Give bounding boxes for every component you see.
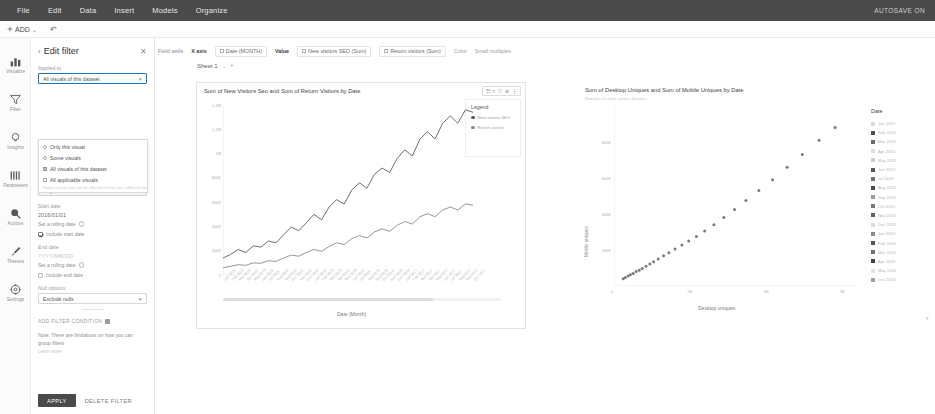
applied-to-dropdown[interactable]: Only this visual Some visuals All visual… bbox=[38, 139, 148, 193]
sliders-icon bbox=[9, 169, 22, 182]
apply-button[interactable]: APPLY bbox=[38, 394, 76, 407]
legend-item-2[interactable]: Return visitors bbox=[471, 125, 516, 130]
dropdown-option-only-this-visual[interactable]: Only this visual bbox=[39, 141, 147, 152]
legend-item-1[interactable]: New visitors SEO bbox=[471, 115, 516, 120]
undo-icon[interactable]: ↶ bbox=[50, 25, 57, 34]
x-axis-field-pill[interactable]: Date (MONTH) bbox=[215, 46, 267, 57]
rail-item-parameters[interactable]: Parameters bbox=[0, 160, 31, 198]
value-field-pill-1[interactable]: New visitors SEO (Sum) bbox=[297, 46, 371, 57]
back-chevron-icon[interactable]: ‹ bbox=[38, 47, 41, 56]
cursor-click-icon bbox=[9, 207, 22, 220]
visual-1-toolbar[interactable]: ☷ ↕ ▽ ⊘ ⋮ bbox=[482, 86, 522, 96]
sheet-tab[interactable]: Sheet 1 bbox=[197, 63, 218, 69]
menu-item-data[interactable]: Data bbox=[71, 0, 106, 21]
clock-icon[interactable] bbox=[79, 221, 85, 227]
date-legend-swatch bbox=[871, 168, 875, 172]
date-legend-item[interactable]: Nov 2015 bbox=[869, 211, 931, 220]
visual-1-legend: Legend New visitors SEO Return visitors bbox=[465, 99, 521, 157]
rail-item-settings[interactable]: Settings bbox=[0, 274, 31, 312]
start-rolling-row[interactable]: Set a rolling date bbox=[38, 221, 147, 227]
dropdown-option-some-visuals[interactable]: Some visuals bbox=[39, 152, 147, 163]
include-end-checkbox[interactable] bbox=[38, 273, 43, 278]
visual-line-chart[interactable]: Sum of New Visitors Seo and Sum of Retur… bbox=[196, 82, 526, 329]
date-legend-swatch bbox=[871, 140, 875, 144]
rail-item-insights[interactable]: Insights bbox=[0, 122, 31, 160]
date-legend-item[interactable]: Dec 2015 bbox=[869, 220, 931, 229]
null-options-select[interactable]: Exclude nulls ▾ bbox=[38, 293, 147, 304]
date-legend-item[interactable]: Jun 2015 bbox=[869, 165, 931, 174]
date-legend-swatch bbox=[871, 195, 875, 199]
y-tick-label: 600K bbox=[199, 200, 221, 205]
add-sheet-button[interactable]: + bbox=[230, 62, 234, 69]
date-legend-item[interactable]: Jun 2016 bbox=[869, 275, 931, 284]
filter-apply-icon[interactable]: ☷ bbox=[486, 86, 490, 96]
date-legend-item[interactable]: Feb 2016 bbox=[869, 238, 931, 247]
rail-label-visualize: Visualize bbox=[6, 69, 25, 75]
small-multiples-well-label[interactable]: Small multiples bbox=[475, 48, 511, 54]
date-legend-item[interactable]: May 2016 bbox=[869, 266, 931, 275]
divider bbox=[82, 309, 104, 310]
include-end-row[interactable]: Include end date bbox=[38, 272, 147, 278]
y-tick-label: 600K bbox=[590, 176, 611, 181]
date-legend-swatch bbox=[871, 213, 875, 217]
end-date-value[interactable]: YYYY/MM/DD bbox=[38, 253, 147, 259]
date-legend-swatch bbox=[871, 223, 875, 227]
include-end-label: Include end date bbox=[46, 272, 83, 278]
date-legend-label: Apr 2015 bbox=[878, 149, 895, 154]
date-legend-item[interactable]: May 2015 bbox=[869, 156, 931, 165]
menu-item-edit[interactable]: Edit bbox=[39, 0, 71, 21]
date-legend-item[interactable]: Mar 2015 bbox=[869, 137, 931, 146]
menu-item-models[interactable]: Models bbox=[143, 0, 186, 21]
color-well-label[interactable]: Color bbox=[454, 48, 467, 54]
applied-to-select[interactable]: All visuals of this dataset ▾ bbox=[38, 73, 147, 84]
dropdown-option-all-visuals-dataset[interactable]: All visuals of this dataset bbox=[39, 163, 147, 174]
visual-1-scrollbar-track[interactable] bbox=[223, 298, 501, 301]
chevron-down-icon: ▾ bbox=[139, 76, 142, 82]
date-legend-swatch bbox=[871, 278, 875, 282]
date-legend-item[interactable]: Apr 2015 bbox=[869, 147, 931, 156]
visual-1-scrollbar-thumb[interactable] bbox=[223, 298, 433, 301]
rail-item-filter[interactable]: Filter bbox=[0, 84, 31, 122]
dropdown-option-all-applicable-visuals[interactable]: All applicable visuals bbox=[39, 174, 147, 185]
start-date-value[interactable]: 2016/01/01 bbox=[38, 212, 147, 218]
rail-item-themes[interactable]: Themes bbox=[0, 236, 31, 274]
measure-icon bbox=[302, 49, 306, 53]
rail-item-visualize[interactable]: Visualize bbox=[0, 46, 31, 84]
date-legend-item[interactable]: Feb 2015 bbox=[869, 128, 931, 137]
delete-filter-button[interactable]: DELETE FILTER bbox=[85, 398, 132, 404]
y-tick-label: 200K bbox=[590, 248, 611, 253]
x-tick-label: 1M bbox=[687, 290, 692, 294]
y-tick-label: 1.2M bbox=[199, 127, 221, 132]
learn-more-link[interactable]: Learn more bbox=[38, 349, 147, 354]
menu-item-insert[interactable]: Insert bbox=[105, 0, 143, 21]
sort-icon[interactable]: ↕ bbox=[493, 86, 496, 96]
menu-item-organize[interactable]: Organize bbox=[187, 0, 237, 21]
rail-item-actions[interactable]: Actions bbox=[0, 198, 31, 236]
expand-icon[interactable]: ▾ bbox=[926, 315, 929, 321]
add-button[interactable]: ADD ⌄ bbox=[7, 26, 37, 33]
date-legend-item[interactable]: Jul 2015 bbox=[869, 174, 931, 183]
date-legend-item[interactable]: Sep 2015 bbox=[869, 193, 931, 202]
visual-scatter-chart[interactable]: Sum of Desktop Uniques and Sum of Mobile… bbox=[578, 82, 935, 329]
include-start-checkbox[interactable] bbox=[38, 232, 43, 237]
value-field-pill-2[interactable]: Return visitors (Sum) bbox=[379, 46, 446, 57]
date-legend-item[interactable]: Apr 2016 bbox=[869, 257, 931, 266]
close-icon[interactable]: ✕ bbox=[140, 47, 147, 56]
date-legend-item[interactable]: Oct 2015 bbox=[869, 202, 931, 211]
visual-1-plot-area bbox=[223, 105, 473, 275]
date-legend-item[interactable]: Aug 2015 bbox=[869, 183, 931, 192]
visual-canvas: Sum of New Visitors Seo and Sum of Retur… bbox=[158, 72, 935, 414]
null-options-label: Null options bbox=[38, 285, 147, 291]
menu-dots-icon[interactable]: ⋮ bbox=[512, 86, 517, 96]
add-filter-condition-button[interactable]: ADD FILTER CONDITION bbox=[38, 318, 147, 324]
menu-item-file[interactable]: File bbox=[8, 0, 39, 21]
date-legend-item[interactable]: Jan 2015 bbox=[869, 119, 931, 128]
date-legend-item[interactable]: Mar 2016 bbox=[869, 248, 931, 257]
clock-icon[interactable] bbox=[79, 262, 85, 268]
chevron-down-icon[interactable]: ⌄ bbox=[222, 63, 226, 69]
date-legend-item[interactable]: Jan 2016 bbox=[869, 229, 931, 238]
include-start-row[interactable]: Include start date bbox=[38, 231, 147, 237]
pin-icon[interactable]: ⊘ bbox=[505, 86, 509, 96]
funnel-icon[interactable]: ▽ bbox=[498, 86, 502, 96]
end-rolling-row[interactable]: Set a rolling date bbox=[38, 262, 147, 268]
